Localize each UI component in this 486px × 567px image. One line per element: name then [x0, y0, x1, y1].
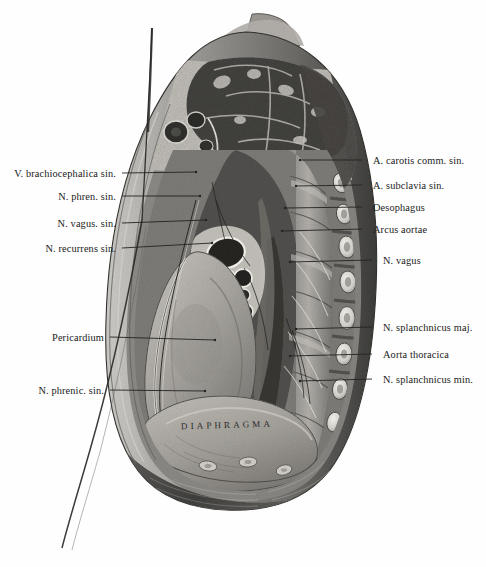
anatomy-label-right-0: A. carotis comm. sin. — [373, 155, 464, 166]
anatomy-label-left-5: N. phrenic. sin. — [38, 385, 104, 396]
anatomical-plate: V. brachiocephalica sin.N. phren. sin.N.… — [0, 0, 486, 567]
anatomy-label-right-2: Oesophagus — [373, 202, 425, 213]
anatomy-label-left-2: N. vagus. sin. — [58, 218, 116, 229]
anatomy-label-right-3: Arcus aortae — [373, 224, 427, 235]
anatomy-illustration — [0, 0, 486, 567]
anatomy-label-left-4: Pericardium — [52, 332, 104, 343]
anatomy-label-right-6: Aorta thoracica — [383, 349, 449, 360]
anatomy-label-right-7: N. splanchnicus min. — [383, 374, 473, 385]
anatomy-label-right-5: N. splanchnicus maj. — [383, 322, 472, 333]
anatomy-label-left-3: N. recurrens sin. — [45, 243, 116, 254]
pleural-cavity — [130, 150, 360, 500]
anatomy-label-left-1: N. phren. sin. — [58, 191, 116, 202]
anatomy-label-right-1: A. subclavia sin. — [373, 180, 444, 191]
anatomy-label-left-0: V. brachiocephalica sin. — [14, 168, 116, 179]
anatomy-label-right-4: N. vagus — [383, 255, 421, 266]
